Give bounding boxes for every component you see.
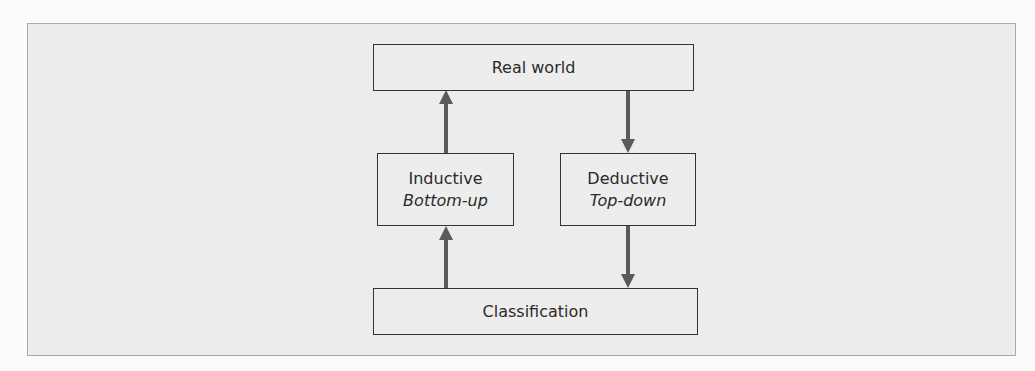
arrow-realworld-to-deductive (621, 90, 635, 153)
arrow-deductive-to-classification (621, 225, 635, 288)
inductive-box: Inductive Bottom-up (377, 153, 514, 226)
top-down-label: Top-down (590, 190, 667, 212)
deductive-box: Deductive Top-down (560, 153, 696, 226)
inductive-label: Inductive (409, 168, 483, 190)
classification-box: Classification (373, 288, 698, 335)
real-world-box: Real world (373, 44, 694, 91)
bottom-up-label: Bottom-up (403, 190, 488, 212)
classification-label: Classification (483, 301, 589, 323)
deductive-label: Deductive (587, 168, 668, 190)
arrow-classification-to-inductive (439, 226, 453, 288)
real-world-label: Real world (492, 57, 576, 79)
arrow-inductive-to-realworld (439, 90, 453, 153)
